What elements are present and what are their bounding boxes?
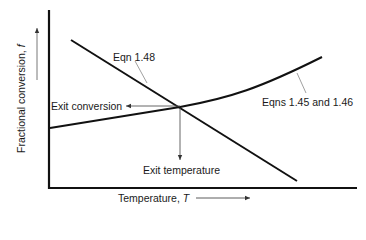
y-axis-label-text: Fractional conversion, — [15, 47, 27, 153]
x-axis-symbol: T — [183, 192, 189, 204]
x-axis-label: Temperature, T — [118, 193, 189, 204]
leader-eqn-1-48 — [135, 61, 147, 83]
y-axis-label: Fractional conversion, f — [16, 44, 27, 153]
curve-eqns-1-45-1-46 — [50, 57, 322, 128]
label-eqn-1-48: Eqn 1.48 — [113, 52, 155, 63]
label-eqns-1-45-1-46: Eqns 1.45 and 1.46 — [262, 97, 353, 108]
leader-eqns-1-45-1-46 — [297, 73, 306, 93]
label-exit-conversion: Exit conversion — [51, 101, 122, 112]
y-axis-symbol: f — [15, 44, 27, 47]
label-exit-temperature: Exit temperature — [143, 165, 220, 176]
x-axis-label-text: Temperature, — [118, 192, 183, 204]
